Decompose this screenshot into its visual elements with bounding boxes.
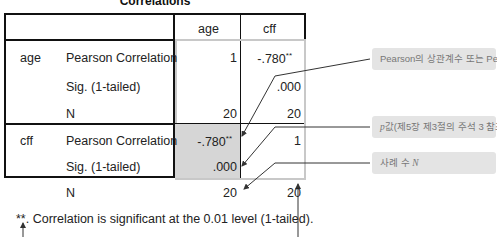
stat-label: N [66,186,75,200]
cell-value: 20 [200,186,237,200]
arrow-to-correlation-icon [242,59,370,136]
annotation-arrows [0,0,497,237]
arrow-to-sig-icon [242,127,370,166]
cell-value: 20 [240,186,301,200]
